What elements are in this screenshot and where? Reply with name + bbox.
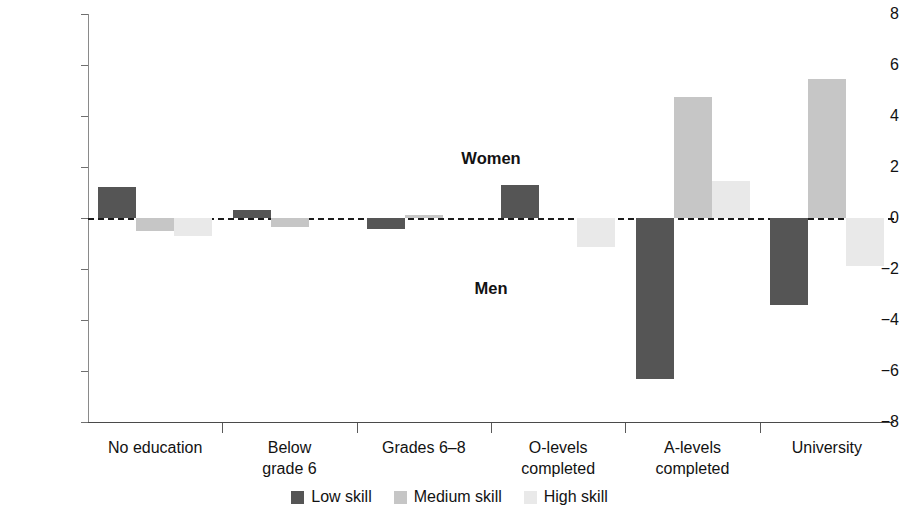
x-tick-label-4: A-levelscompleted [625,437,759,479]
y-tick-mark [81,269,88,270]
bar-high-skill-3 [577,218,615,247]
x-tick-label-line: No education [88,437,222,458]
bar-low-skill-0 [98,187,136,218]
bar-low-skill-2 [367,218,405,229]
x-tick-mark [357,423,358,433]
x-tick-label-line: grade 6 [222,458,356,479]
x-tick-label-line: A-levels [625,437,759,458]
x-tick-label-line: O-levels [491,437,625,458]
bar-low-skill-3 [501,185,539,218]
y-tick-mark [81,167,88,168]
bar-high-skill-4 [712,181,750,218]
y-tick-mark [81,218,88,219]
x-tick-label-2: Grades 6–8 [357,437,491,458]
legend-entry-low[interactable]: Low skill [291,489,371,505]
x-tick-mark [625,423,626,433]
y-tick-mark [81,116,88,117]
x-tick-label-line: University [760,437,894,458]
x-tick-mark [222,423,223,433]
chart-legend: Low skillMedium skillHigh skill [0,489,899,505]
legend-swatch-medium-icon [394,491,407,504]
x-tick-label-line: Below [222,437,356,458]
x-tick-mark [491,423,492,433]
x-tick-label-line: completed [625,458,759,479]
legend-swatch-low-icon [291,491,304,504]
annotation-men: Men [475,279,508,298]
bar-medium-skill-2 [405,215,443,218]
annotation-women: Women [461,149,520,168]
bar-medium-skill-0 [136,218,174,231]
y-tick-mark [81,65,88,66]
legend-entry-medium[interactable]: Medium skill [394,489,502,505]
y-tick-mark [81,422,88,423]
x-tick-label-1: Belowgrade 6 [222,437,356,479]
x-tick-label-5: University [760,437,894,458]
bar-medium-skill-5 [808,79,846,218]
x-tick-label-0: No education [88,437,222,458]
bar-high-skill-0 [174,218,212,236]
bar-low-skill-1 [233,210,271,218]
bar-high-skill-5 [846,218,884,266]
bar-chart-figure: Percentage-point difference 86420−2−4−6−… [0,0,899,525]
legend-label: High skill [544,489,608,505]
y-tick-mark [81,371,88,372]
legend-swatch-high-icon [524,491,537,504]
legend-label: Low skill [311,489,371,505]
x-tick-mark [760,423,761,433]
plot-area: WomenMen [88,14,894,422]
bar-medium-skill-4 [674,97,712,218]
y-tick-mark [81,320,88,321]
y-tick-mark [81,14,88,15]
x-tick-label-3: O-levelscompleted [491,437,625,479]
bar-medium-skill-1 [271,218,309,227]
x-tick-label-line: completed [491,458,625,479]
bar-low-skill-4 [636,218,674,379]
bar-low-skill-5 [770,218,808,305]
x-tick-label-line: Grades 6–8 [357,437,491,458]
legend-entry-high[interactable]: High skill [524,489,608,505]
legend-label: Medium skill [414,489,502,505]
